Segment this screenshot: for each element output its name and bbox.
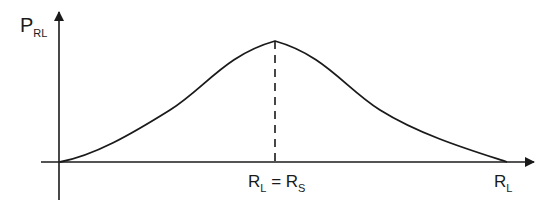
y-axis-label: PRL: [20, 15, 47, 35]
x-axis-label: RL: [494, 173, 512, 190]
peak-label: RL = RS: [248, 173, 305, 190]
power-curve: [60, 41, 507, 162]
